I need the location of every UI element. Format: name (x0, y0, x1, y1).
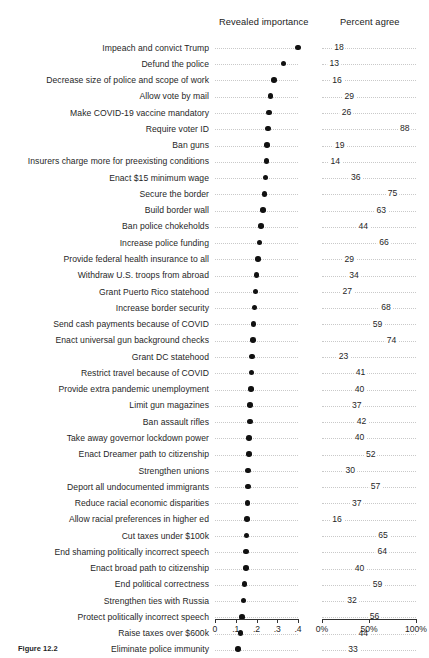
row-label: Restrict travel because of COVID (81, 368, 209, 379)
row-label: Cut taxes under $100k (122, 531, 209, 542)
guide-line-right (322, 536, 416, 538)
percent-agree-value: 18 (332, 42, 346, 53)
guide-line-right (322, 503, 416, 505)
data-point-dot (243, 565, 249, 571)
percent-agree-value: 33 (346, 644, 360, 655)
dot-plot-row: Ban assault rifles42 (0, 417, 429, 433)
data-point-dot (250, 337, 256, 343)
guide-line-right (322, 552, 416, 554)
guide-line-left (215, 455, 298, 457)
percent-agree-value: 64 (375, 546, 389, 557)
axis-tick (277, 619, 278, 623)
percent-agree-value: 37 (350, 498, 364, 509)
data-point-dot (248, 386, 254, 392)
axis-tick (215, 619, 216, 623)
row-label: Secure the border (139, 189, 209, 200)
percent-agree-value: 29 (342, 254, 356, 265)
guide-line-left (215, 552, 298, 554)
figure-caption: Figure 12.2 (18, 644, 58, 653)
guide-line-left (215, 129, 298, 131)
row-label: Strengthen unions (139, 466, 210, 477)
dot-plot-row: Ban police chokeholds44 (0, 221, 429, 237)
data-point-dot (264, 142, 270, 148)
row-label: End political correctness (115, 579, 209, 590)
row-label: Reduce racial economic disparities (75, 498, 209, 509)
row-label: Send cash payments because of COVID (53, 319, 209, 330)
data-point-dot (245, 500, 251, 506)
dot-plot-row: Allow racial preferences in higher ed16 (0, 514, 429, 530)
dot-plot-row: Take away governor lockdown power40 (0, 433, 429, 449)
dot-plot-row: Withdraw U.S. troops from abroad34 (0, 270, 429, 286)
axis-tick-label: .2 (253, 624, 260, 634)
guide-line-right (322, 292, 416, 294)
dot-plot-row: Strengthen ties with Russia32 (0, 596, 429, 612)
row-label: Strengthen ties with Russia (104, 596, 209, 607)
percent-agree-value: 52 (364, 449, 378, 460)
percent-agree-value: 88 (398, 123, 412, 134)
guide-line-right (322, 471, 416, 473)
percent-agree-value: 19 (333, 140, 347, 151)
row-label: Protect politically incorrect speech (78, 612, 209, 623)
guide-line-right (322, 243, 416, 245)
guide-line-right (322, 259, 416, 261)
axis-tick (369, 619, 370, 623)
percent-agree-value: 27 (341, 286, 355, 297)
percent-agree-value: 29 (342, 91, 356, 102)
row-label: Require voter ID (146, 124, 209, 135)
percent-agree-value: 44 (357, 221, 371, 232)
percent-agree-value: 65 (376, 530, 390, 541)
guide-line-right (322, 585, 416, 587)
percent-agree-value: 63 (374, 205, 388, 216)
dot-plot-row: Decrease size of police and scope of wor… (0, 75, 429, 91)
dot-plot-row: Limit gun magazines37 (0, 400, 429, 416)
guide-line-right (322, 422, 416, 424)
guide-line-left (215, 324, 298, 326)
guide-line-left (215, 194, 298, 196)
dot-plot-row: Enact universal gun background checks74 (0, 335, 429, 351)
axis-tick (322, 619, 323, 623)
guide-line-left (215, 438, 298, 440)
guide-line-left (215, 357, 298, 359)
data-point-dot (266, 110, 272, 116)
dot-plot-row: Enact broad path to citizenship40 (0, 563, 429, 579)
percent-agree-value: 30 (343, 465, 357, 476)
dot-plot-row: Make COVID-19 vaccine mandatory26 (0, 108, 429, 124)
dot-plot-row: Enact Dreamer path to citizenship52 (0, 449, 429, 465)
row-label: Ban guns (172, 140, 209, 151)
percent-agree-value: 37 (350, 400, 364, 411)
data-point-dot (246, 435, 252, 441)
guide-line-left (215, 227, 298, 229)
dot-plot-row: Insurers charge more for preexisting con… (0, 156, 429, 172)
guide-line-left (215, 113, 298, 115)
guide-line-right (322, 276, 416, 278)
percent-agree-value: 40 (353, 563, 367, 574)
data-point-dot (247, 419, 253, 425)
percent-agree-value: 66 (377, 237, 391, 248)
row-label: Decrease size of police and scope of wor… (46, 75, 209, 86)
axis-tick-label: 50% (360, 624, 377, 634)
guide-line-left (215, 520, 298, 522)
dot-plot-row: Defund the police13 (0, 59, 429, 75)
dot-plot-row: Enact $15 minimum wage36 (0, 173, 429, 189)
guide-line-right (322, 373, 416, 375)
dot-plot-row: Secure the border75 (0, 189, 429, 205)
dot-plot-row: Require voter ID88 (0, 124, 429, 140)
dot-plot-row: Ban guns19 (0, 140, 429, 156)
axis-tick-label: 100% (405, 624, 427, 634)
row-label: Ban police chokeholds (122, 221, 209, 232)
row-label: Impeach and convict Trump (102, 43, 209, 54)
data-point-dot (254, 272, 260, 278)
guide-line-left (215, 162, 298, 164)
guide-line-left (215, 211, 298, 213)
guide-line-left (215, 80, 298, 82)
dot-plot-row: End shaming politically incorrect speech… (0, 547, 429, 563)
dot-plot-row: Increase police funding66 (0, 238, 429, 254)
data-point-dot (271, 77, 277, 83)
data-point-dot (244, 516, 250, 522)
row-label: Enact universal gun background checks (55, 335, 209, 346)
percent-agree-value: 75 (386, 188, 400, 199)
guide-line-right (322, 438, 416, 440)
axis-tick-label: .1 (232, 624, 239, 634)
guide-line-left (215, 373, 298, 375)
dot-plot-row: Build border wall63 (0, 205, 429, 221)
